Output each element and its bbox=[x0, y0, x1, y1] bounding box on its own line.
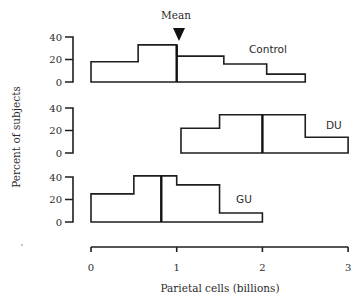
histogram-outline bbox=[181, 115, 348, 153]
y-tick-label: 0 bbox=[56, 148, 62, 159]
chart-canvas: Mean Percent of subjects 02040 02040 020… bbox=[0, 0, 364, 308]
panel-gu: 02040 bbox=[49, 172, 262, 228]
y-tick-label: 40 bbox=[49, 32, 62, 43]
x-tick-label: 2 bbox=[259, 262, 265, 273]
x-tick-label: 1 bbox=[174, 262, 180, 273]
x-tick-label: 3 bbox=[345, 262, 351, 273]
panel-label-control: Control bbox=[249, 43, 287, 55]
x-tick-label: 0 bbox=[88, 262, 94, 273]
mean-label: Mean bbox=[161, 9, 191, 21]
mean-arrow-icon bbox=[173, 28, 185, 41]
panel-label-gu: GU bbox=[236, 193, 252, 205]
panel-du: 02040 bbox=[49, 103, 348, 159]
y-tick-label: 40 bbox=[49, 172, 62, 183]
y-axis-bracket bbox=[65, 37, 73, 82]
y-axis-title: Percent of subjects bbox=[10, 86, 22, 188]
y-tick-label: 40 bbox=[49, 103, 62, 114]
panel-control: 02040 bbox=[49, 32, 305, 88]
y-tick-label: 0 bbox=[56, 217, 62, 228]
y-axis-bracket bbox=[65, 108, 73, 153]
x-axis-title: Parietal cells (billions) bbox=[161, 282, 280, 294]
y-tick-label: 20 bbox=[49, 125, 62, 136]
y-tick-label: 0 bbox=[56, 77, 62, 88]
y-tick-label: 20 bbox=[49, 54, 62, 65]
y-axis-bracket bbox=[65, 177, 73, 222]
histogram-chart: Mean Percent of subjects 02040 02040 020… bbox=[0, 0, 364, 308]
artifact-dot bbox=[21, 244, 23, 246]
y-tick-label: 20 bbox=[49, 194, 62, 205]
x-axis: 0123 bbox=[88, 247, 351, 273]
panel-label-du: DU bbox=[326, 119, 342, 131]
